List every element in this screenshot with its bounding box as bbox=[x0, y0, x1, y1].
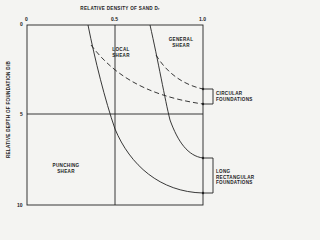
bracket-circular bbox=[203, 89, 213, 104]
label-long-rect-foundations: LONG RECTANGULAR FOUNDATIONS bbox=[216, 169, 254, 186]
label-circular-foundations: CIRCULAR FOUNDATIONS bbox=[216, 91, 253, 102]
label-general-shear: GENERAL SHEAR bbox=[166, 37, 196, 48]
curve-circular-upper bbox=[156, 55, 203, 89]
label-punching-shear: PUNCHING SHEAR bbox=[50, 163, 82, 174]
label-local-shear: LOCAL SHEAR bbox=[106, 47, 136, 58]
bracket-long-rect bbox=[203, 158, 213, 193]
